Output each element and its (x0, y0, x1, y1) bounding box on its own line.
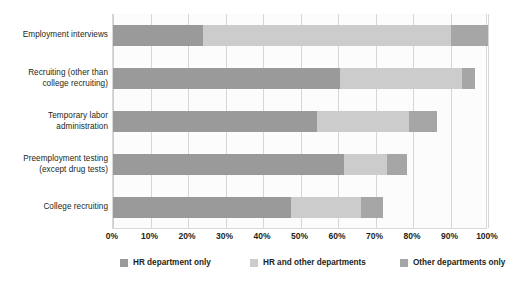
x-tick-label: 40% (253, 231, 270, 241)
bar-segment (113, 154, 344, 175)
category-label: Preemployment testing(except drug tests) (0, 154, 108, 175)
legend-item[interactable]: HR department only (120, 258, 211, 267)
category-label: College recruiting (0, 202, 108, 213)
stacked-bar (113, 154, 407, 175)
x-tick-label: 30% (216, 231, 233, 241)
category-axis-labels: Employment interviewsRecruiting (other t… (0, 14, 108, 229)
x-tick-label: 80% (403, 231, 420, 241)
bar-segment (344, 154, 387, 175)
bar-segment (361, 197, 384, 218)
bar-segment (451, 25, 489, 46)
category-label: Recruiting (other thancollege recruiting… (0, 68, 108, 89)
bar-rows (113, 14, 486, 228)
legend-swatch-icon (400, 259, 408, 267)
bar-segment (409, 111, 437, 132)
legend-item[interactable]: HR and other departments (250, 258, 366, 267)
legend-label: HR department only (133, 258, 211, 267)
legend-label: HR and other departments (263, 258, 366, 267)
x-tick-label: 10% (141, 231, 158, 241)
category-label: Employment interviews (0, 30, 108, 41)
category-label-line: (except drug tests) (0, 165, 108, 176)
bar-row (113, 100, 486, 143)
bar-segment (113, 197, 291, 218)
x-tick-label: 60% (328, 231, 345, 241)
x-tick-label: 100% (476, 231, 498, 241)
category-label-line: Recruiting (other than (0, 68, 108, 79)
bar-segment (113, 111, 317, 132)
legend-item[interactable]: Other departments only (400, 258, 505, 267)
x-axis-ticks: 0%10%20%30%40%50%60%70%80%90%100% (112, 231, 487, 245)
bar-row (113, 143, 486, 186)
x-tick-label: 70% (366, 231, 383, 241)
x-tick-label: 50% (291, 231, 308, 241)
bar-segment (317, 111, 409, 132)
chart-legend: HR department onlyHR and other departmen… (112, 258, 502, 272)
category-label-line: Preemployment testing (0, 154, 108, 165)
stacked-bar (113, 111, 437, 132)
x-tick-label: 20% (178, 231, 195, 241)
bar-segment (113, 25, 203, 46)
bar-row (113, 186, 486, 229)
bar-row (113, 14, 486, 57)
bar-segment (203, 25, 451, 46)
bar-row (113, 57, 486, 100)
bar-segment (462, 68, 475, 89)
stacked-bar (113, 68, 475, 89)
bar-segment (387, 154, 408, 175)
category-label: Temporary laboradministration (0, 111, 108, 132)
bar-segment (340, 68, 462, 89)
legend-swatch-icon (250, 259, 258, 267)
category-label-line: Temporary labor (0, 111, 108, 122)
category-label-line: college recruiting) (0, 79, 108, 90)
legend-label: Other departments only (413, 258, 505, 267)
stacked-bar (113, 25, 488, 46)
x-tick-label: 90% (441, 231, 458, 241)
bar-segment (113, 68, 340, 89)
category-label-line: Employment interviews (0, 30, 108, 41)
stacked-bar (113, 197, 383, 218)
gridline-100pct (488, 14, 489, 228)
legend-swatch-icon (120, 259, 128, 267)
bar-segment (291, 197, 360, 218)
x-tick-label: 0% (106, 231, 118, 241)
plot-area (112, 14, 487, 229)
category-label-line: College recruiting (0, 202, 108, 213)
stacked-bar-chart: Employment interviewsRecruiting (other t… (0, 0, 509, 283)
category-label-line: administration (0, 122, 108, 133)
